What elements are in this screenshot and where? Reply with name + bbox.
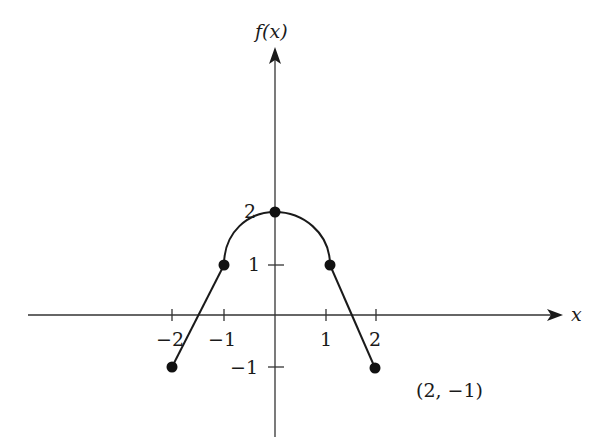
x-tick-label-2: 2	[369, 328, 381, 350]
x-tick-label-neg2: −2	[156, 328, 184, 350]
y-axis-label: f(x)	[253, 20, 288, 42]
y-tick-label-1: 1	[248, 253, 260, 275]
function-graph: f(x) x −2 −1 1 2 2 1 −1 (2, −1)	[0, 0, 610, 446]
data-points	[167, 207, 381, 374]
y-tick-label-neg1: −1	[230, 356, 258, 378]
point-annotation: (2, −1)	[416, 379, 483, 401]
point-2-neg1	[370, 363, 381, 374]
point-0-2	[270, 207, 281, 218]
x-axis-label: x	[571, 303, 582, 325]
right-line-segment	[330, 265, 375, 368]
semicircle-arc	[224, 212, 330, 265]
x-tick-label-1: 1	[320, 328, 332, 350]
point-neg1-1	[219, 260, 230, 271]
left-line-segment	[172, 265, 224, 367]
y-ticks	[268, 265, 284, 367]
point-neg2-neg1	[167, 362, 178, 373]
x-tick-label-neg1: −1	[208, 328, 236, 350]
point-1-1	[325, 260, 336, 271]
y-tick-label-2: 2	[244, 200, 256, 222]
function-curve	[172, 212, 375, 368]
